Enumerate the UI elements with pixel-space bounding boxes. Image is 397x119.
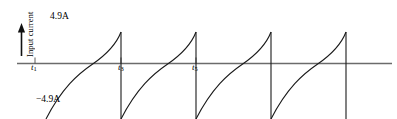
waveform-cycle-2-rise xyxy=(121,32,196,119)
x-tick-label-t5: t5 xyxy=(192,63,198,73)
y-axis-label: Input current xyxy=(26,8,38,60)
waveform-cycle-4-rise xyxy=(271,32,346,119)
x-tick-label-t3: t3 xyxy=(118,63,124,73)
waveform-trace xyxy=(46,32,346,119)
x-tick-label-t1: t1 xyxy=(31,63,37,73)
peak-current-label: 4.9A xyxy=(50,12,69,22)
x-tick-label-t1-sub: 1 xyxy=(34,65,37,72)
waveform-figure: Input current 4.9A −4.9A t1 t3 t5 xyxy=(0,0,397,119)
x-tick-label-t5-sub: 5 xyxy=(195,65,198,72)
waveform-cycle-3-rise xyxy=(196,32,271,119)
trough-current-label: −4.9A xyxy=(36,95,60,105)
waveform-cycle-1-rise xyxy=(46,32,121,119)
x-tick-label-t3-sub: 3 xyxy=(121,65,124,72)
